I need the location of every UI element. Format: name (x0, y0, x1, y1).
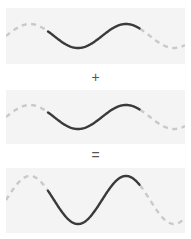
wave-2-dashed-left (6, 105, 48, 117)
operator-plus: + (0, 70, 191, 84)
wave-sum-dashed-right (140, 185, 185, 224)
wave-panel-1 (6, 8, 185, 64)
wave-1-solid (48, 24, 140, 48)
wave-panel-sum (6, 168, 185, 233)
wave-1-plot (6, 8, 185, 64)
operator-equals: = (0, 148, 191, 162)
wave-2-plot (6, 90, 185, 144)
wave-panel-2 (6, 90, 185, 144)
wave-2-solid (48, 105, 140, 129)
wave-sum-plot (6, 168, 185, 233)
operator-equals-label: = (91, 147, 99, 163)
wave-superposition-figure: + = (0, 0, 191, 239)
wave-sum-solid (48, 176, 140, 224)
operator-plus-label: + (91, 69, 99, 85)
wave-1-dashed-right (140, 29, 185, 48)
wave-1-dashed-left (6, 24, 48, 36)
wave-2-dashed-right (140, 110, 185, 129)
wave-sum-dashed-left (6, 176, 48, 200)
